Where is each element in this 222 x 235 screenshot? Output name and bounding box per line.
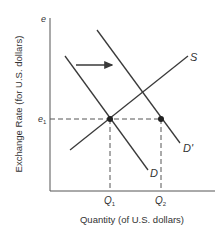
equilibrium-point-q1 xyxy=(107,116,113,122)
q2-label: Q2 xyxy=(155,195,167,207)
x-axis-title: Quantity (of U.S. dollars) xyxy=(80,214,184,225)
y-axis-title: Exchange Rate (for U.S. dollars) xyxy=(13,36,24,173)
demand-curve xyxy=(65,56,148,170)
supply-curve xyxy=(70,56,188,150)
q1-label: Q1 xyxy=(104,195,116,207)
e1-label: e1 xyxy=(38,114,47,125)
exchange-rate-diagram: S D D' e e1 Q1 Q2 Quantity (of U.S. doll… xyxy=(0,0,222,235)
demand-curve-shifted xyxy=(97,30,180,143)
equilibrium-point-q2 xyxy=(158,116,164,122)
demand-label: D xyxy=(150,167,158,179)
demand-shifted-label: D' xyxy=(183,142,194,154)
y-axis-symbol: e xyxy=(41,14,46,24)
supply-label: S xyxy=(190,51,198,63)
